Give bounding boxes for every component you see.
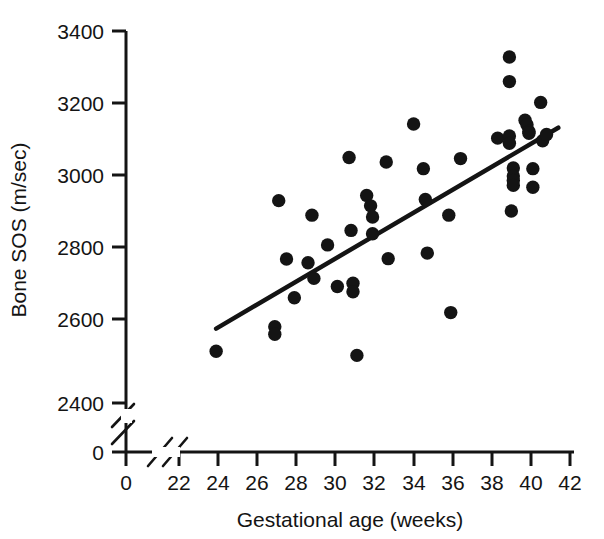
scatter-point: [454, 152, 467, 165]
scatter-point: [526, 181, 539, 194]
x-tick-label: 40: [519, 471, 542, 494]
y-axis-ticks: [112, 31, 126, 452]
scatter-point: [503, 75, 516, 88]
x-axis-ticks: [126, 452, 570, 466]
y-break-mask: [121, 409, 132, 423]
x-axis-tick-labels: 0 22 24 26 28 30 32 34 36 38 40 42: [120, 471, 582, 494]
scatter-point: [305, 208, 318, 221]
scatter-point: [366, 210, 379, 223]
scatter-point: [209, 345, 222, 358]
scatter-point: [507, 179, 520, 192]
scatter-point: [534, 96, 547, 109]
scatter-point: [346, 285, 359, 298]
scatter-plot-figure: 3400 3200 3000 2800 2600 2400 0 0 22 24 …: [0, 0, 604, 539]
x-tick-label: 22: [167, 471, 190, 494]
x-origin-tick-label: 0: [120, 471, 132, 494]
x-tick-label: 30: [323, 471, 346, 494]
scatter-point: [419, 193, 432, 206]
scatter-point: [503, 137, 516, 150]
y-axis-title: Bone SOS (m/sec): [7, 142, 30, 317]
scatter-point: [288, 291, 301, 304]
scatter-point: [272, 194, 285, 207]
x-tick-label: 28: [284, 471, 307, 494]
scatter-point: [350, 349, 363, 362]
y-tick-label: 2600: [57, 308, 104, 331]
x-tick-label: 38: [480, 471, 503, 494]
scatter-point: [268, 327, 281, 340]
scatter-point: [342, 151, 355, 164]
y-tick-label: 3200: [57, 92, 104, 115]
scatter-point: [522, 127, 535, 140]
scatter-point: [407, 117, 420, 130]
scatter-point: [421, 246, 434, 259]
bone-sos-vs-gestational-age-chart: 3400 3200 3000 2800 2600 2400 0 0 22 24 …: [0, 0, 604, 539]
y-tick-label: 2400: [57, 392, 104, 415]
scatter-point: [417, 162, 430, 175]
scatter-point: [301, 256, 314, 269]
y-tick-label: 3400: [57, 20, 104, 43]
x-tick-label: 32: [362, 471, 385, 494]
scatter-point: [505, 204, 518, 217]
x-tick-label: 26: [245, 471, 268, 494]
y-tick-label: 3000: [57, 164, 104, 187]
scatter-point: [380, 155, 393, 168]
scatter-point: [381, 252, 394, 265]
scatter-point: [321, 238, 334, 251]
scatter-point: [331, 280, 344, 293]
scatter-point: [366, 227, 379, 240]
scatter-point: [540, 128, 553, 141]
scatter-point: [444, 306, 457, 319]
scatter-point: [364, 199, 377, 212]
scatter-point: [503, 50, 516, 63]
scatter-point: [442, 208, 455, 221]
x-tick-label: 24: [206, 471, 230, 494]
scatter-points-layer: [209, 50, 553, 362]
y-axis-tick-labels: 3400 3200 3000 2800 2600 2400 0: [57, 20, 104, 464]
scatter-point: [307, 272, 320, 285]
x-axis-title: Gestational age (weeks): [237, 508, 463, 531]
y-tick-label: 2800: [57, 236, 104, 259]
scatter-point: [280, 252, 293, 265]
scatter-point: [526, 162, 539, 175]
scatter-point: [491, 131, 504, 144]
x-tick-label: 34: [402, 471, 426, 494]
x-tick-label: 42: [558, 471, 581, 494]
x-break-mask: [152, 447, 180, 457]
scatter-point: [344, 224, 357, 237]
x-tick-label: 36: [441, 471, 464, 494]
y-origin-tick-label: 0: [92, 441, 104, 464]
